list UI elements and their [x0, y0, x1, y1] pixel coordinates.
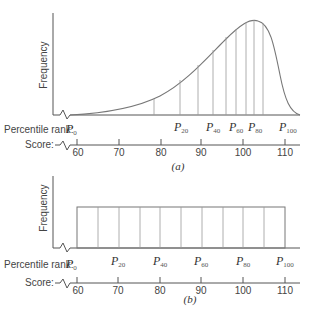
- svg-text:100: 100: [235, 285, 252, 296]
- score-label-a: Score:: [25, 139, 54, 150]
- panel-a: Frequency Percentile rank: P0 P20 P40 P6…: [4, 13, 300, 173]
- percentile-labels-a: P0 P20 P40 P60 P80 P100: [65, 120, 297, 137]
- svg-text:P40: P40: [152, 254, 168, 269]
- score-tick-labels-a: 60 70 80 90 100 110: [72, 147, 293, 158]
- decile-lines-b: [98, 207, 264, 248]
- svg-text:90: 90: [195, 147, 207, 158]
- score-axis-a: [55, 141, 300, 150]
- figure: Frequency Percentile rank: P0 P20 P40 P6…: [0, 0, 314, 314]
- svg-text:110: 110: [277, 147, 293, 158]
- score-axis-b: [55, 279, 300, 288]
- panel-b: Frequency Percentile rank: P0 P20 P40 P6…: [4, 176, 300, 306]
- percentile-rank-label-b: Percentile rank:: [4, 259, 73, 270]
- percentile-labels-b: P0 P20 P40 P60 P80 P100: [65, 254, 294, 272]
- svg-text:90: 90: [195, 285, 207, 296]
- svg-text:P60: P60: [228, 120, 244, 135]
- svg-text:80: 80: [154, 285, 166, 296]
- svg-text:70: 70: [113, 147, 125, 158]
- distribution-curve-a: [70, 20, 300, 115]
- svg-text:110: 110: [277, 285, 293, 296]
- caption-a: (a): [172, 160, 185, 173]
- svg-text:60: 60: [72, 147, 84, 158]
- svg-text:P100: P100: [275, 254, 294, 269]
- y-axis-label-a: Frequency: [38, 41, 49, 88]
- decile-lines-a: [154, 20, 263, 115]
- y-axis-label-b: Frequency: [38, 184, 49, 231]
- svg-text:P0: P0: [65, 122, 77, 137]
- svg-text:P80: P80: [247, 120, 263, 135]
- score-label-b: Score:: [25, 277, 54, 288]
- svg-text:P0: P0: [65, 257, 77, 272]
- svg-text:P40: P40: [205, 120, 221, 135]
- percentile-rank-label-a: Percentile rank:: [4, 124, 73, 135]
- svg-text:P20: P20: [173, 120, 189, 135]
- svg-text:P80: P80: [235, 254, 251, 269]
- score-ticks-b: [77, 277, 285, 283]
- svg-text:P20: P20: [110, 254, 126, 269]
- score-ticks-a: [77, 139, 285, 145]
- caption-b: (b): [184, 293, 197, 306]
- svg-text:60: 60: [72, 285, 84, 296]
- svg-text:100: 100: [235, 147, 252, 158]
- svg-text:80: 80: [155, 147, 167, 158]
- svg-text:P60: P60: [193, 254, 209, 269]
- svg-text:70: 70: [112, 285, 124, 296]
- svg-text:P100: P100: [278, 120, 297, 135]
